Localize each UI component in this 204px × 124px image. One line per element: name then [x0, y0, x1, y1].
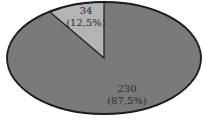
slice-small-value: 34 — [80, 5, 93, 16]
slice-large-percent: (87,5%) — [107, 95, 147, 106]
slice-small-percent: (12,5%) — [66, 17, 106, 28]
slice-large-value: 230 — [117, 83, 136, 94]
pie-chart: 34 (12,5%) 230 (87,5%) — [0, 0, 204, 124]
